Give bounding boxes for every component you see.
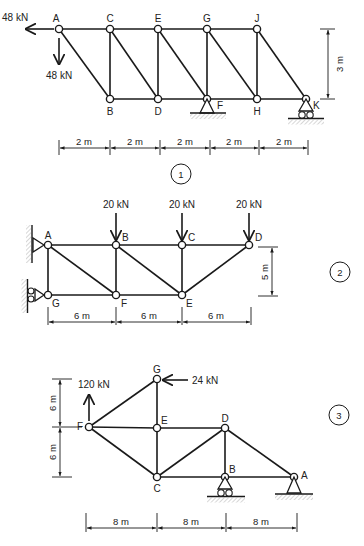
joint-label: F bbox=[217, 100, 223, 111]
joint-label: D bbox=[255, 232, 262, 243]
dimension-label: 5 m bbox=[259, 264, 270, 280]
dimension-label: 6 m bbox=[47, 395, 58, 411]
joint-label: K bbox=[313, 100, 320, 111]
joint-G bbox=[203, 25, 210, 32]
truss-1: ACEGJBDFHK 48 kN 48 kN 3 m bbox=[2, 12, 345, 184]
load-label: 20 kN bbox=[169, 199, 195, 210]
joint-label: F bbox=[77, 421, 83, 432]
joint-label: A bbox=[301, 470, 308, 481]
joint-label: D bbox=[154, 106, 161, 117]
joint-J bbox=[253, 25, 260, 32]
joint-B bbox=[112, 241, 119, 248]
dimension-label: 6 m bbox=[208, 310, 224, 321]
dimension-horizontal: 2 m 2 m 2 m 2 m 2 m bbox=[59, 136, 308, 155]
joint-label: E bbox=[155, 13, 162, 24]
member-BE bbox=[116, 245, 182, 295]
load-label: 20 kN bbox=[236, 199, 262, 210]
truss-3-load-f: 120 kN bbox=[78, 379, 110, 421]
dimension-label: 6 m bbox=[141, 310, 157, 321]
joint-label: G bbox=[52, 298, 60, 309]
member-ED bbox=[182, 245, 249, 295]
joint-A bbox=[44, 241, 51, 248]
joint-G bbox=[153, 375, 160, 382]
figure-number: 3 bbox=[336, 410, 341, 421]
dimension-label: 6 m bbox=[74, 310, 90, 321]
joint-label: B bbox=[122, 232, 129, 243]
joint-A bbox=[55, 25, 62, 32]
dimension-label: 2 m bbox=[127, 136, 143, 147]
joint-label: F bbox=[121, 298, 127, 309]
joint-label: G bbox=[203, 13, 211, 24]
joint-E bbox=[153, 424, 160, 431]
joint-label: B bbox=[107, 106, 114, 117]
dimension-label: 2 m bbox=[76, 136, 92, 147]
figure-number: 2 bbox=[337, 267, 342, 278]
joint-label: B bbox=[229, 464, 236, 475]
joint-D bbox=[221, 424, 228, 431]
member-JK bbox=[257, 29, 306, 99]
joint-G bbox=[44, 291, 51, 298]
dimension-horizontal: 8 m 8 m 8 m bbox=[86, 513, 297, 532]
figure-number: 1 bbox=[178, 169, 183, 180]
roller-support-icon bbox=[207, 477, 245, 503]
member-AF bbox=[48, 245, 116, 295]
joint-D bbox=[154, 95, 161, 102]
joint-label: C bbox=[153, 483, 160, 494]
dimension-label: 8 m bbox=[183, 516, 199, 527]
member-GH bbox=[207, 29, 257, 99]
dimension-label: 8 m bbox=[253, 516, 269, 527]
joint-D bbox=[245, 241, 252, 248]
joint-label: A bbox=[53, 13, 60, 24]
wall-pin-support-icon bbox=[26, 225, 44, 263]
load-label: 120 kN bbox=[78, 379, 110, 390]
truss-3: FGECDBA 120 kN 24 kN 6 m 6 m bbox=[47, 364, 349, 532]
load-label: 20 kN bbox=[103, 199, 129, 210]
dimension-label: 8 m bbox=[113, 516, 129, 527]
dimension-label: 3 m bbox=[334, 56, 345, 72]
dimension-vertical: 5 m bbox=[258, 247, 278, 296]
joint-label: G bbox=[153, 364, 161, 375]
member-CD bbox=[157, 428, 225, 477]
joint-E bbox=[178, 291, 185, 298]
joint-C bbox=[153, 473, 160, 480]
dimension-vertical: 3 m bbox=[320, 29, 345, 99]
member-FE bbox=[89, 427, 157, 428]
truss-1-load-a-horizontal: 48 kN bbox=[2, 12, 54, 29]
figure-number-badge: 3 bbox=[329, 405, 349, 425]
truss-1-members: ACEGJBDFHK bbox=[53, 13, 320, 117]
load-label: 48 kN bbox=[46, 70, 72, 81]
member-EF bbox=[158, 29, 207, 99]
figure-number-badge: 2 bbox=[330, 262, 350, 282]
dimension-label: 6 m bbox=[47, 444, 58, 460]
member-CD bbox=[110, 29, 158, 99]
member-AB bbox=[59, 29, 110, 99]
truss-2-members: ABCDGFE bbox=[44, 230, 262, 309]
joint-B bbox=[106, 95, 113, 102]
joint-label: H bbox=[253, 106, 260, 117]
figure-number-badge: 1 bbox=[171, 164, 191, 184]
truss-2: ABCDGFE 20 kN 20 kN 120 kN 20 kN bbox=[22, 199, 351, 325]
dimension-label: 2 m bbox=[226, 136, 242, 147]
joint-label: E bbox=[161, 415, 168, 426]
joint-E bbox=[154, 25, 161, 32]
joint-C bbox=[106, 25, 113, 32]
dimension-label: 2 m bbox=[276, 136, 292, 147]
load-label: 24 kN bbox=[192, 375, 218, 386]
dimension-label: 2 m bbox=[177, 136, 193, 147]
joint-label: E bbox=[186, 298, 193, 309]
joint-label: A bbox=[45, 230, 52, 241]
dimension-horizontal: 6 m 6 m 6 m bbox=[48, 307, 251, 325]
truss-3-load-g: 24 kN bbox=[163, 375, 218, 386]
joint-label: C bbox=[106, 13, 113, 24]
truss-1-load-a-vertical: 48 kN bbox=[46, 38, 72, 81]
wall-roller-support-icon bbox=[22, 279, 45, 313]
joint-H bbox=[253, 95, 260, 102]
joint-F bbox=[85, 423, 92, 430]
joint-F bbox=[112, 291, 119, 298]
joint-C bbox=[178, 241, 185, 248]
member-FC bbox=[89, 427, 157, 477]
load-label: 48 kN bbox=[2, 12, 28, 23]
joint-label: J bbox=[255, 13, 260, 24]
truss-figures: ACEGJBDFHK 48 kN 48 kN 3 m bbox=[0, 0, 364, 546]
joint-label: C bbox=[188, 232, 195, 243]
